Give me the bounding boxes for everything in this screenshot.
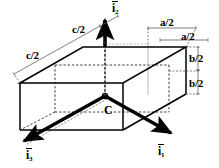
i1-axis-arrow <box>105 96 171 133</box>
dimension-label-c-lower: c/2 <box>26 50 39 61</box>
box-construction-lines <box>105 44 148 95</box>
overbar-icon <box>112 1 118 3</box>
vector-label-i2-subscript: 2 <box>115 8 118 16</box>
vector-label-i3-subscript: 3 <box>29 155 32 163</box>
dimension-label-b-lower: b/2 <box>189 78 203 89</box>
dimension-label-c-upper: c/2 <box>72 24 85 35</box>
vector-label-i3-glyph: i <box>26 150 29 162</box>
vector-label-i3: i 3 <box>26 150 32 163</box>
vector-label-i2-glyph: i <box>112 3 115 15</box>
dim-line-c-upper <box>100 16 118 26</box>
i3-axis-arrow <box>24 96 105 141</box>
vector-label-i2: i 2 <box>112 3 118 16</box>
vector-label-i1-glyph: i <box>158 146 161 158</box>
overbar-icon <box>158 144 164 146</box>
vector-label-i2-base: i <box>112 2 115 14</box>
vector-label-i1-subscript: 1 <box>161 151 164 159</box>
figure-canvas: c/2 c/2 a/2 a/2 b/2 b/2 C i 2 i 1 i 3 <box>0 0 219 168</box>
dimension-label-a-upper: a/2 <box>160 17 173 28</box>
overbar-icon <box>26 148 32 150</box>
dim-leader-c-left <box>14 74 20 83</box>
basis-vector-arrows <box>24 20 171 144</box>
vector-label-i1: i 1 <box>158 146 164 159</box>
vector-label-i1-base: i <box>158 145 161 157</box>
box-visible-edges <box>20 47 186 130</box>
vector-label-i3-base: i <box>26 149 29 161</box>
dimension-label-a-lower: a/2 <box>181 31 194 42</box>
box-diagram-svg <box>0 0 219 168</box>
centroid-label: C <box>104 104 112 116</box>
dimension-label-b-upper: b/2 <box>189 53 203 64</box>
i3-axis-guide <box>27 99 107 144</box>
